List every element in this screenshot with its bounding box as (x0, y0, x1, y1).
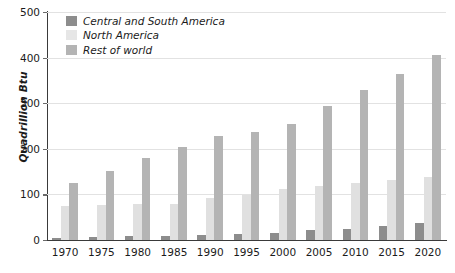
bar-chart: Quadrillion Btu 0100200300400500 1970197… (0, 0, 455, 273)
bar-group (265, 12, 301, 240)
legend-label: North America (83, 29, 159, 41)
legend-label: Central and South America (83, 15, 225, 27)
bar (142, 158, 151, 240)
bar-group (228, 12, 264, 240)
legend-swatch-icon (66, 16, 77, 26)
bar (424, 177, 433, 240)
bar (379, 226, 388, 240)
bar (432, 55, 441, 240)
x-tick-label: 2010 (342, 246, 369, 258)
bar (270, 233, 279, 240)
bar (360, 90, 369, 240)
bar (178, 147, 187, 240)
y-tick-label: 400 (20, 52, 40, 64)
bar (279, 189, 288, 240)
x-tick-label: 2005 (306, 246, 333, 258)
y-tick-mark (43, 103, 47, 104)
bar (125, 236, 134, 240)
bar (52, 238, 61, 240)
bar-group (301, 12, 337, 240)
bar (306, 230, 315, 240)
y-tick-mark (43, 240, 47, 241)
x-tick-label: 1995 (233, 246, 260, 258)
legend-item: Central and South America (66, 14, 225, 27)
bar (287, 124, 296, 240)
bar (89, 237, 98, 240)
bar (396, 74, 405, 240)
bar (97, 205, 106, 240)
bar (106, 171, 115, 240)
legend-swatch-icon (66, 30, 77, 40)
y-tick-label: 300 (20, 97, 40, 109)
bar (415, 223, 424, 240)
bar (234, 234, 243, 240)
x-tick-label: 2015 (378, 246, 405, 258)
chart-legend: Central and South AmericaNorth AmericaRe… (66, 14, 225, 56)
x-tick-label: 1985 (161, 246, 188, 258)
y-tick-mark (43, 58, 47, 59)
y-tick-mark (43, 194, 47, 195)
y-tick-label: 200 (20, 143, 40, 155)
bar (133, 204, 142, 240)
x-tick-label: 2000 (269, 246, 296, 258)
x-tick-label: 1980 (124, 246, 151, 258)
bar (61, 206, 70, 240)
bar (387, 180, 396, 240)
bar (197, 235, 206, 240)
bar (69, 183, 78, 240)
y-tick-label: 500 (20, 6, 40, 18)
y-tick-mark (43, 149, 47, 150)
y-tick-mark (43, 12, 47, 13)
bar (351, 183, 360, 240)
bar-group (373, 12, 409, 240)
y-tick-label: 0 (33, 234, 40, 246)
bar (315, 186, 324, 240)
bar (251, 132, 260, 240)
x-tick-label: 1975 (88, 246, 115, 258)
bar (242, 195, 251, 240)
legend-item: Rest of world (66, 43, 225, 56)
bar (206, 198, 215, 240)
bar (343, 229, 352, 240)
bar (214, 136, 223, 240)
x-tick-label: 1970 (52, 246, 79, 258)
bar (161, 236, 170, 240)
bar-group (410, 12, 446, 240)
legend-item: North America (66, 29, 225, 42)
x-tick-label: 1990 (197, 246, 224, 258)
legend-label: Rest of world (83, 44, 152, 56)
legend-swatch-icon (66, 45, 77, 55)
bar (170, 204, 179, 240)
x-tick-label: 2020 (414, 246, 441, 258)
y-axis-title: Quadrillion Btu (17, 47, 29, 187)
bar (323, 106, 332, 240)
y-tick-label: 100 (20, 188, 40, 200)
bar-group (337, 12, 373, 240)
